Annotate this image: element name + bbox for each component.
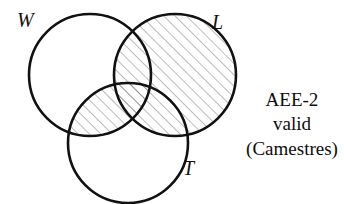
caption-line-mood-name: (Camestres) [240, 137, 344, 161]
caption-line-form: AEE-2 [240, 88, 344, 112]
caption-line-validity: valid [240, 112, 344, 136]
set-label-T: T [183, 158, 194, 178]
caption-block: AEE-2 valid (Camestres) [240, 88, 344, 161]
set-label-W: W [17, 10, 34, 30]
venn-diagram-figure: W L T AEE-2 valid (Camestres) [0, 0, 344, 204]
set-label-L: L [212, 12, 223, 32]
